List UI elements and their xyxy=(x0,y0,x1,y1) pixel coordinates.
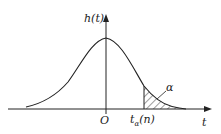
critical-value-arg: (n) xyxy=(139,113,155,126)
t-distribution-diagram: h(t) t O tα(n) α xyxy=(0,0,221,134)
alpha-pointer xyxy=(157,91,166,99)
tail-area-label: α xyxy=(166,82,173,93)
diagram-graphic xyxy=(0,0,221,134)
origin-label: O xyxy=(100,115,109,126)
x-axis-arrow-icon xyxy=(204,106,212,112)
x-axis-label: t xyxy=(202,117,206,128)
critical-value-label: tα(n) xyxy=(130,114,155,128)
y-axis-label: h(t) xyxy=(84,13,104,24)
